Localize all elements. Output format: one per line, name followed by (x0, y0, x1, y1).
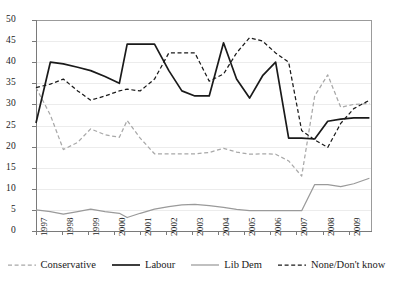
y-tick-label: 0 (0, 226, 16, 236)
x-tick-mark (323, 231, 324, 235)
legend-swatch-icon (112, 260, 140, 269)
legend-item[interactable]: Lib Dem (191, 259, 262, 270)
y-tick-label: 50 (0, 15, 16, 25)
y-tick-label: 5 (0, 205, 16, 215)
x-tick-mark (349, 231, 350, 235)
y-tick-label: 30 (0, 99, 16, 109)
y-tick-label: 15 (0, 163, 16, 173)
plot-area (36, 20, 372, 231)
x-tick-label: 2006 (274, 217, 283, 236)
y-tick-label: 25 (0, 121, 16, 131)
series-line-none-don-t-know (36, 38, 369, 148)
y-tick-label: 35 (0, 78, 16, 88)
x-tick-label: 2005 (248, 217, 257, 236)
series-line-labour (36, 43, 369, 139)
line-chart: 05101520253035404550 1997199819992000200… (0, 0, 393, 283)
series-line-lib-dem (36, 178, 369, 217)
x-tick-mark (166, 231, 167, 235)
x-tick-label: 1998 (66, 217, 75, 236)
x-tick-label: 2007 (300, 217, 309, 236)
y-tick-label: 10 (0, 184, 16, 194)
y-tick-label: 40 (0, 57, 16, 67)
series-line-conservative (36, 75, 369, 176)
x-tick-label: 2001 (144, 217, 153, 236)
x-tick-mark (36, 231, 37, 235)
x-tick-label: 2000 (118, 217, 127, 236)
x-tick-label: 2003 (196, 217, 205, 236)
y-tick-label: 20 (0, 142, 16, 152)
x-tick-mark (296, 231, 297, 235)
legend-item[interactable]: None/Don't know (278, 259, 386, 270)
x-tick-mark (140, 231, 141, 235)
x-tick-mark (218, 231, 219, 235)
x-tick-mark (62, 231, 63, 235)
x-tick-mark (88, 231, 89, 235)
x-tick-mark (192, 231, 193, 235)
legend-label: Conservative (41, 259, 96, 270)
legend-swatch-icon (191, 260, 219, 269)
series-lines (36, 20, 372, 231)
x-tick-label: 2009 (353, 217, 362, 236)
x-tick-label: 2004 (222, 217, 231, 236)
chart-legend: ConservativeLabourLib DemNone/Don't know (0, 259, 393, 270)
legend-label: Lib Dem (224, 259, 262, 270)
x-tick-mark (270, 231, 271, 235)
x-tick-label: 2002 (170, 217, 179, 236)
legend-label: None/Don't know (311, 259, 386, 270)
x-tick-label: 1999 (92, 217, 101, 236)
x-tick-label: 2008 (327, 217, 336, 236)
legend-swatch-icon (8, 260, 36, 269)
x-tick-mark (114, 231, 115, 235)
legend-item[interactable]: Conservative (8, 259, 96, 270)
legend-swatch-icon (278, 260, 306, 269)
legend-item[interactable]: Labour (112, 259, 175, 270)
legend-label: Labour (145, 259, 175, 270)
y-tick-label: 45 (0, 36, 16, 46)
x-tick-label: 1997 (40, 217, 49, 236)
x-tick-mark (244, 231, 245, 235)
